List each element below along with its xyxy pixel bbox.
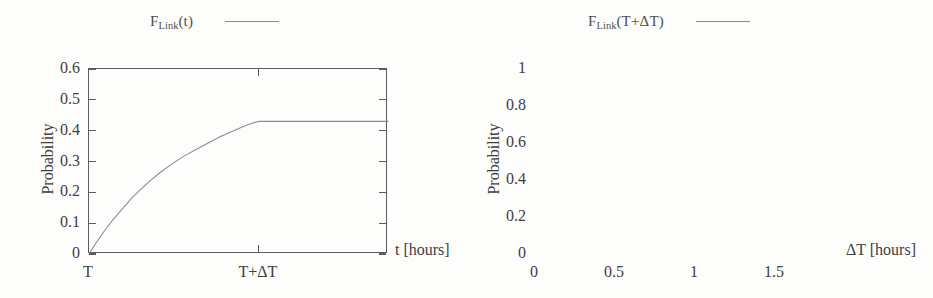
y-tick-right — [379, 130, 386, 131]
x-tick-label: 1 — [690, 263, 698, 281]
x-tick-label: 0 — [530, 263, 538, 281]
legend-right: FLink(T+ΔT) — [588, 6, 750, 36]
y-tick-left — [89, 223, 96, 224]
y-tick-label: 0.2 — [28, 182, 80, 200]
figure-canvas: FLink(t) Probability t [hours] 00.10.20.… — [0, 0, 933, 298]
legend-base-left: F — [150, 13, 159, 29]
legend-label-right: FLink(T+ΔT) — [588, 13, 664, 30]
y-tick-right — [379, 161, 386, 162]
x-tick-label: T — [83, 263, 93, 281]
chart-panel-right: FLink(T+ΔT) Probability ΔT [hours] 00.20… — [466, 0, 933, 298]
x-tick-label: 1.5 — [764, 263, 784, 281]
legend-arg-right: (T+ΔT) — [616, 13, 664, 29]
x-tick-label: 0.5 — [604, 263, 624, 281]
plot-area-left — [88, 68, 387, 253]
y-tick-label: 0.6 — [28, 59, 80, 77]
legend-line-sample-right — [696, 21, 750, 22]
y-tick-label: 0 — [28, 244, 80, 262]
legend-line-sample-left — [225, 21, 279, 22]
y-tick-right — [379, 223, 386, 224]
legend-subscript-right: Link — [597, 20, 617, 31]
legend-base-right: F — [588, 13, 597, 29]
y-tick-right — [379, 192, 386, 193]
legend-left: FLink(t) — [150, 6, 279, 36]
legend-label-left: FLink(t) — [150, 13, 193, 30]
chart-panel-left: FLink(t) Probability t [hours] 00.10.20.… — [0, 0, 466, 298]
y-tick-right — [379, 68, 386, 69]
y-tick-left — [89, 130, 96, 131]
x-axis-title-right: ΔT [hours] — [846, 241, 916, 259]
y-tick-right — [379, 99, 386, 100]
y-tick-left — [89, 99, 96, 100]
legend-subscript-left: Link — [159, 20, 179, 31]
y-tick-label: 0.4 — [28, 121, 80, 139]
x-axis-title-left: t [hours] — [395, 241, 450, 259]
y-tick-label: 0.6 — [474, 133, 526, 151]
y-tick-left — [89, 253, 96, 254]
y-tick-label: 0 — [474, 244, 526, 262]
y-tick-left — [89, 161, 96, 162]
y-tick-label: 0.3 — [28, 152, 80, 170]
y-tick-label: 0.8 — [474, 96, 526, 114]
y-tick-label: 1 — [474, 59, 526, 77]
x-tick-bot — [258, 245, 259, 252]
y-tick-right — [379, 253, 386, 254]
y-tick-label: 0.5 — [28, 90, 80, 108]
curve-left — [89, 69, 388, 254]
y-tick-left — [89, 68, 96, 69]
x-tick-label: T+ΔT — [238, 263, 277, 281]
x-tick-top — [258, 69, 259, 76]
y-tick-label: 0.2 — [474, 207, 526, 225]
y-tick-left — [89, 192, 96, 193]
y-tick-label: 0.4 — [474, 170, 526, 188]
y-tick-label: 0.1 — [28, 213, 80, 231]
legend-arg-left: (t) — [178, 13, 193, 29]
